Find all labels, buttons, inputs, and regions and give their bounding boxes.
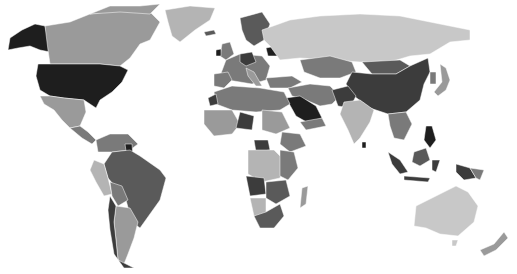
world-choropleth-map <box>0 0 517 274</box>
region-japan[interactable] <box>434 64 450 96</box>
region-niger-chad[interactable] <box>236 112 254 130</box>
region-west-africa[interactable] <box>204 110 240 136</box>
region-angola[interactable] <box>246 176 266 196</box>
region-java[interactable] <box>404 176 430 182</box>
region-north-africa[interactable] <box>214 86 290 112</box>
region-borneo[interactable] <box>412 148 430 166</box>
region-zambia-moz[interactable] <box>266 180 290 204</box>
region-canada-arctic[interactable] <box>90 4 160 14</box>
region-indonesia[interactable] <box>388 152 408 174</box>
region-ireland[interactable] <box>216 49 221 56</box>
region-southeast-asia[interactable] <box>388 112 412 140</box>
region-india[interactable] <box>340 100 374 144</box>
region-sulawesi[interactable] <box>432 160 440 172</box>
region-tasmania[interactable] <box>452 240 458 246</box>
region-east-africa[interactable] <box>280 150 298 180</box>
region-canada[interactable] <box>45 10 160 66</box>
region-morocco[interactable] <box>208 94 218 106</box>
region-madagascar[interactable] <box>300 186 308 208</box>
region-iberia[interactable] <box>214 72 232 88</box>
region-alaska[interactable] <box>8 24 50 52</box>
region-mexico[interactable] <box>40 96 86 128</box>
region-central-america[interactable] <box>70 126 96 144</box>
region-greenland[interactable] <box>165 6 215 42</box>
region-ethiopia[interactable] <box>280 132 306 152</box>
region-new-zealand[interactable] <box>480 232 508 256</box>
region-sudan[interactable] <box>262 110 290 134</box>
region-philippines[interactable] <box>424 126 436 148</box>
region-russia[interactable] <box>262 14 470 62</box>
region-korea[interactable] <box>430 72 436 84</box>
region-iceland[interactable] <box>204 30 216 36</box>
region-sri-lanka[interactable] <box>362 142 366 148</box>
region-australia[interactable] <box>414 186 478 236</box>
